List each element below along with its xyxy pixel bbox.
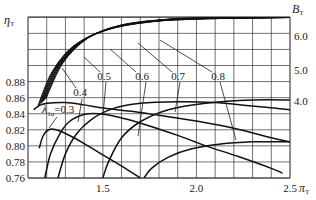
curve-label: 0.8: [211, 70, 225, 82]
curve-label: 0.5: [97, 70, 111, 82]
lambda-label: λ1u=0.3: [41, 102, 75, 118]
y-tick-label: 0.78: [6, 156, 26, 168]
labels: 0.40.50.60.70.8λ1u=0.30.760.780.800.820.…: [4, 2, 310, 196]
x-tick-label: 1.5: [96, 182, 110, 194]
y-axis-label: ηT: [4, 13, 15, 28]
annotation-leader: [49, 117, 57, 128]
y-tick-label: 0.88: [6, 76, 26, 88]
y2-tick-label: 5.0: [294, 64, 308, 76]
y-tick-label: 0.80: [6, 140, 26, 152]
y-tick-label: 0.84: [6, 108, 26, 120]
efficiency-curve: [144, 142, 290, 178]
annotation-leader: [138, 43, 172, 72]
y2-tick-label: 6.0: [294, 30, 308, 42]
annotation-leader: [110, 49, 136, 72]
annotation-leader: [138, 82, 146, 136]
y2-tick-label: 4.0: [294, 95, 308, 107]
x-axis-label: πT: [299, 181, 310, 196]
x-tick-label: 2.5: [283, 182, 297, 194]
efficiency-curve: [39, 129, 140, 178]
annotation-leader: [160, 40, 212, 72]
curve-label: 0.7: [171, 70, 185, 82]
turbine-efficiency-chart: 0.40.50.60.70.8λ1u=0.30.760.780.800.820.…: [0, 0, 316, 200]
x-tick-label: 2.0: [190, 182, 204, 194]
y-tick-label: 0.82: [6, 124, 25, 136]
y-tick-label: 0.76: [6, 172, 26, 184]
curve-label: 0.4: [73, 86, 87, 98]
y-tick-label: 0.86: [6, 92, 26, 104]
grid: [28, 17, 290, 178]
annotation-leader: [78, 99, 82, 122]
annotation-leader: [62, 68, 76, 88]
y2-axis-label: BT: [292, 2, 304, 17]
curve-label: 0.6: [135, 70, 149, 82]
annotation-leader: [103, 82, 106, 115]
